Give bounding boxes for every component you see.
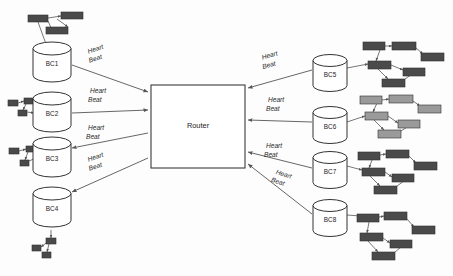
cluster-node[interactable] xyxy=(365,112,388,120)
cylinder-label: BC8 xyxy=(324,216,337,223)
heartbeat-label-line2: Beat xyxy=(261,59,277,70)
cluster-node[interactable] xyxy=(378,130,401,138)
cluster-edge xyxy=(347,64,368,68)
cluster-edge xyxy=(370,176,380,186)
cluster-node[interactable] xyxy=(28,15,48,22)
blockchain-node-bc5[interactable]: BC5 xyxy=(313,55,347,92)
router-node[interactable]: Router xyxy=(151,85,245,168)
cylinder-label: BC1 xyxy=(46,60,59,67)
cluster-node[interactable] xyxy=(18,110,27,116)
cluster-node[interactable] xyxy=(358,152,380,160)
cluster-edge xyxy=(391,65,403,70)
heartbeat-label: HeartBeat xyxy=(266,96,285,112)
cylinder-top xyxy=(33,42,71,55)
cluster-node[interactable] xyxy=(414,162,437,170)
heartbeat-link xyxy=(248,152,312,168)
cluster-edge xyxy=(374,120,384,130)
cluster-node[interactable] xyxy=(386,150,409,158)
cluster-node[interactable] xyxy=(363,42,385,50)
heartbeat-label-line2: Beat xyxy=(264,151,279,158)
cluster-node[interactable] xyxy=(382,79,405,87)
cluster-edge xyxy=(19,149,26,151)
cluster-edge xyxy=(48,16,61,18)
cluster-edge xyxy=(347,116,365,122)
cluster-edge xyxy=(347,166,362,170)
heartbeat-label-line2: Beat xyxy=(88,96,103,103)
cluster-bc8 xyxy=(347,212,435,260)
cluster-node[interactable] xyxy=(421,53,444,61)
blockchain-node-bc3[interactable]: BC3 xyxy=(33,137,71,177)
cluster-edge xyxy=(373,103,377,112)
cluster-bc3 xyxy=(9,146,36,166)
cluster-node[interactable] xyxy=(398,120,420,128)
heartbeat-line xyxy=(248,120,312,122)
cluster-edge xyxy=(382,99,389,100)
heartbeat-label-line1: Heart xyxy=(88,124,105,131)
heartbeat-label: HeartBeat xyxy=(259,49,282,70)
cluster-node[interactable] xyxy=(392,174,414,182)
heartbeat-label-line2: Beat xyxy=(266,105,281,112)
heartbeat-line xyxy=(248,152,312,168)
cluster-bc5 xyxy=(347,42,444,87)
cluster-edge xyxy=(367,222,369,233)
heartbeat-line xyxy=(248,70,312,88)
cluster-node[interactable] xyxy=(360,233,383,241)
cluster-node[interactable] xyxy=(32,245,41,251)
cluster-node[interactable] xyxy=(418,105,441,113)
cluster-node[interactable] xyxy=(357,214,379,222)
cylinder-top xyxy=(33,137,71,150)
blockchain-node-bc1[interactable]: BC1 xyxy=(33,42,71,82)
cluster-node[interactable] xyxy=(372,252,395,260)
heartbeat-label: HeartBeat xyxy=(85,150,108,171)
blockchain-node-bc2[interactable]: BC2 xyxy=(33,92,71,132)
heartbeat-label-line2: Beat xyxy=(270,176,286,187)
cylinder-top xyxy=(313,55,347,67)
heartbeat-label-line2: Beat xyxy=(86,133,101,140)
cylinder-label: BC5 xyxy=(324,71,337,78)
cluster-edge xyxy=(379,216,384,217)
cluster-edge xyxy=(23,104,26,110)
cluster-node[interactable] xyxy=(403,68,425,76)
cluster-edge xyxy=(18,101,24,103)
heartbeat-label-line1: Heart xyxy=(268,96,285,103)
cluster-node[interactable] xyxy=(42,252,51,258)
cluster-bc4 xyxy=(32,230,56,258)
cluster-node[interactable] xyxy=(362,168,385,176)
cluster-node[interactable] xyxy=(8,100,18,106)
heartbeat-line xyxy=(72,158,148,192)
cluster-node[interactable] xyxy=(24,98,33,104)
cluster-node[interactable] xyxy=(61,12,83,19)
cluster-node[interactable] xyxy=(384,212,407,220)
cluster-node[interactable] xyxy=(360,96,382,104)
blockchain-node-bc6[interactable]: BC6 xyxy=(313,107,347,144)
cluster-node[interactable] xyxy=(368,61,391,69)
cluster-node[interactable] xyxy=(390,240,412,248)
cluster-node[interactable] xyxy=(46,238,56,244)
cluster-node[interactable] xyxy=(374,186,397,194)
blockchain-node-bc8[interactable]: BC8 xyxy=(313,200,347,237)
cluster-node[interactable] xyxy=(392,42,416,50)
heartbeat-link xyxy=(72,133,148,148)
heartbeat-label: HeartBeat xyxy=(85,42,108,63)
blockchain-node-bc7[interactable]: BC7 xyxy=(313,152,347,189)
cluster-node[interactable] xyxy=(46,27,68,34)
cluster-bc6 xyxy=(347,95,441,138)
network-diagram: BC1BC2BC3BC4BC5BC6BC7BC8 Router HeartBea… xyxy=(0,0,453,276)
cluster-bc7 xyxy=(347,150,437,194)
cluster-node[interactable] xyxy=(389,95,413,103)
blockchain-node-bc4[interactable]: BC4 xyxy=(33,187,71,227)
cylinder-top xyxy=(313,152,347,164)
cluster-edge xyxy=(25,152,28,160)
cluster-node[interactable] xyxy=(20,160,29,166)
diagram-canvas: BC1BC2BC3BC4BC5BC6BC7BC8 Router HeartBea… xyxy=(0,0,453,276)
heartbeat-link xyxy=(248,120,312,122)
router-label: Router xyxy=(187,121,210,130)
cluster-edge xyxy=(47,244,49,252)
cluster-edge xyxy=(369,160,372,168)
cylinder-label: BC3 xyxy=(46,155,59,162)
heartbeat-label: HeartBeat xyxy=(88,87,107,103)
cluster-edge xyxy=(376,50,380,61)
cluster-edge xyxy=(368,241,378,252)
cluster-node[interactable] xyxy=(9,148,19,154)
cluster-node[interactable] xyxy=(412,226,435,234)
